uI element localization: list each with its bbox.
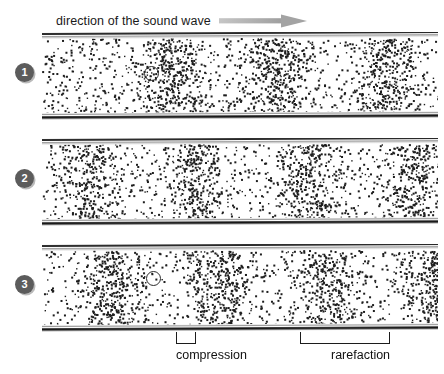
gas-particles-2 bbox=[42, 144, 438, 220]
tube-body-2 bbox=[42, 138, 438, 226]
compression-label: compression bbox=[176, 348, 247, 362]
tube-body-1 bbox=[42, 32, 438, 120]
sound-wave-tube-1 bbox=[42, 32, 438, 120]
wave-direction-label: direction of the sound wave bbox=[56, 14, 211, 28]
tracer-particle-marker-3 bbox=[146, 271, 161, 286]
tracer-particle-marker-1 bbox=[144, 66, 159, 81]
tube-body-3 bbox=[42, 244, 438, 332]
rarefaction-bracket bbox=[300, 332, 390, 343]
panel-number-badge-3: 3 bbox=[15, 275, 34, 294]
sound-wave-tube-3 bbox=[42, 244, 438, 332]
gas-particles-3 bbox=[42, 250, 438, 326]
right-arrow-icon bbox=[219, 14, 307, 28]
compression-bracket bbox=[176, 332, 196, 343]
panel-number-badge-1: 1 bbox=[15, 63, 34, 82]
sound-wave-tube-2 bbox=[42, 138, 438, 226]
panel-number-badge-2: 2 bbox=[15, 169, 34, 188]
diagram-canvas: direction of the sound wave 1 2 3 bbox=[0, 0, 444, 374]
gas-particles-1 bbox=[42, 38, 438, 114]
rarefaction-label: rarefaction bbox=[331, 348, 390, 362]
wave-direction-header: direction of the sound wave bbox=[56, 11, 307, 31]
